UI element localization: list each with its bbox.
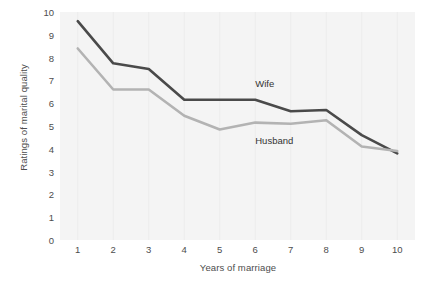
x-tick-label: 5	[208, 244, 232, 255]
y-tick-label: 3	[36, 166, 54, 177]
x-axis-title: Years of marriage	[60, 262, 416, 273]
y-tick-label: 8	[36, 52, 54, 63]
series-line-wife	[78, 21, 398, 153]
y-tick-label: 6	[36, 98, 54, 109]
y-tick-label: 4	[36, 143, 54, 154]
y-tick-label: 1	[36, 212, 54, 223]
series-label-wife: Wife	[255, 78, 274, 89]
y-tick-label: 5	[36, 121, 54, 132]
y-tick-label: 10	[36, 7, 54, 18]
y-tick-label: 0	[36, 235, 54, 246]
x-tick-label: 7	[279, 244, 303, 255]
y-tick-label: 9	[36, 29, 54, 40]
y-axis-title: Ratings of marital quality	[18, 33, 29, 203]
x-tick-label: 3	[137, 244, 161, 255]
y-tick-label: 7	[36, 75, 54, 86]
y-tick-label: 2	[36, 189, 54, 200]
x-tick-label: 9	[350, 244, 374, 255]
series-label-husband: Husband	[255, 135, 293, 146]
x-tick-label: 6	[243, 244, 267, 255]
y-axis-tick-labels: 012345678910	[36, 0, 54, 291]
x-tick-label: 4	[172, 244, 196, 255]
x-tick-label: 10	[385, 244, 409, 255]
x-tick-label: 1	[66, 244, 90, 255]
line-chart: 012345678910 12345678910 WifeHusband Rat…	[0, 0, 428, 291]
x-tick-label: 2	[101, 244, 125, 255]
series-lines	[78, 21, 398, 153]
x-tick-label: 8	[314, 244, 338, 255]
